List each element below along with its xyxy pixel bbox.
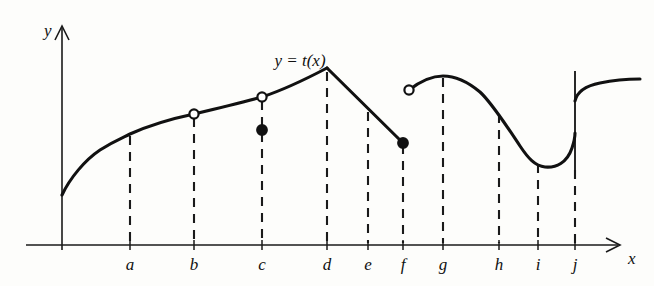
graph-figure: y = t(x) y x a b c d e f g h i j — [0, 0, 654, 286]
closed-point-c — [257, 125, 267, 135]
open-point-f-right — [404, 85, 413, 94]
open-point-b — [189, 109, 198, 118]
tick-label-b: b — [190, 256, 199, 273]
open-point-c — [257, 92, 266, 101]
open-points — [189, 85, 413, 118]
tick-label-j: j — [573, 256, 578, 273]
function-label: y = t(x) — [274, 52, 325, 69]
tick-label-d: d — [323, 256, 332, 273]
y-axis-label: y — [44, 22, 52, 39]
droplines — [130, 72, 575, 243]
tick-label-i: i — [536, 256, 541, 273]
closed-point-f — [398, 138, 408, 148]
x-axis-label: x — [628, 250, 636, 267]
tick-label-g: g — [439, 256, 448, 273]
closed-points — [257, 125, 408, 148]
curve-branch-2 — [327, 68, 403, 143]
tick-label-a: a — [126, 256, 135, 273]
x-axis — [26, 238, 620, 252]
function-graph-svg — [0, 0, 654, 286]
tick-label-h: h — [495, 256, 504, 273]
curve-branch-3 — [409, 76, 575, 167]
tick-label-e: e — [364, 256, 372, 273]
curve-branch-4 — [575, 79, 640, 101]
tick-label-f: f — [401, 256, 406, 273]
tick-label-c: c — [258, 256, 266, 273]
curve-branch-1 — [62, 68, 327, 195]
y-axis — [55, 26, 69, 250]
